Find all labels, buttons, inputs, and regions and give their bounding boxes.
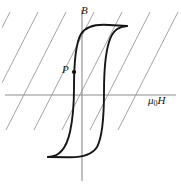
load-line [2, 12, 38, 83]
point-p-label: P [62, 64, 69, 75]
figure-canvas [0, 0, 181, 184]
load-line [90, 12, 150, 130]
hysteresis-lower-branch [48, 26, 127, 157]
load-line [62, 12, 122, 130]
load-line [6, 12, 66, 130]
load-line [118, 12, 178, 130]
field-symbol: H [158, 94, 166, 106]
vertical-axis-label: B [81, 5, 88, 16]
load-lines-group [0, 0, 178, 130]
hysteresis-figure: B P μ0H [0, 0, 181, 184]
horizontal-axis-label: μ0H [148, 95, 165, 108]
load-line [2, 12, 10, 28]
load-line [0, 0, 2, 12]
point-p-marker [72, 70, 76, 74]
hysteresis-upper-branch [48, 25, 127, 157]
